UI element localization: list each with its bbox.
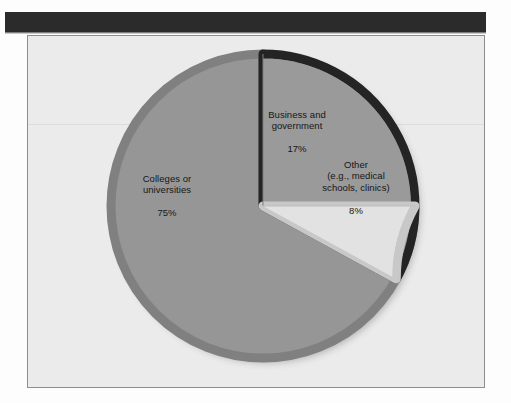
pie-label-other-percent: 8% bbox=[298, 205, 414, 217]
figure-panel: Business and government 17% Other (e.g.,… bbox=[27, 35, 485, 388]
page-header-bar bbox=[5, 12, 486, 32]
pie-label-colleges-text: Colleges or universities bbox=[112, 173, 222, 196]
pie-label-colleges: Colleges or universities 75% bbox=[112, 161, 222, 231]
document-page: Business and government 17% Other (e.g.,… bbox=[0, 0, 511, 403]
pie-label-business-text: Business and government bbox=[242, 109, 352, 132]
pie-label-other: Other (e.g., medical schools, clinics) 8… bbox=[298, 147, 414, 228]
pie-chart-svg bbox=[28, 36, 485, 388]
pie-chart: Business and government 17% Other (e.g.,… bbox=[28, 36, 485, 388]
page-header-bar-shadow bbox=[5, 32, 486, 34]
pie-label-colleges-percent: 75% bbox=[112, 207, 222, 219]
pie-label-other-text: Other (e.g., medical schools, clinics) bbox=[298, 159, 414, 194]
